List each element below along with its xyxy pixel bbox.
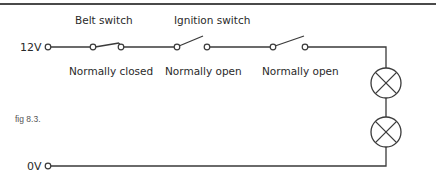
terminal-12v-pin [45,44,51,50]
third-switch-blade [275,36,304,46]
lamp-2 [371,117,401,147]
ignition-switch-pin-a [174,44,180,50]
belt-switch-title: Belt switch [75,14,133,26]
terminal-0v-pin [45,163,51,169]
figure-caption: fig 8.3. [15,114,41,124]
terminal-0v-label: 0V [27,160,42,173]
ignition-switch [174,36,210,50]
belt-switch-pin-a [90,44,96,50]
third-switch-pin-a [270,44,276,50]
ignition-switch-state: Normally open [165,65,242,77]
terminal-12v-label: 12V [20,41,42,54]
ignition-switch-blade [179,36,203,46]
ignition-switch-title: Ignition switch [174,14,250,26]
circuit-diagram: 12V Belt switch Normally closed Ignition… [0,0,436,183]
third-switch-pin-b [302,44,308,50]
third-switch [270,36,308,50]
lamp-1 [371,68,401,98]
belt-switch-state: Normally closed [69,65,153,77]
wire-return-0v [51,147,386,166]
belt-switch-pin-b [118,44,124,50]
third-switch-state: Normally open [262,65,339,77]
ignition-switch-pin-b [204,44,210,50]
belt-switch [90,43,124,50]
belt-switch-blade [95,43,119,47]
